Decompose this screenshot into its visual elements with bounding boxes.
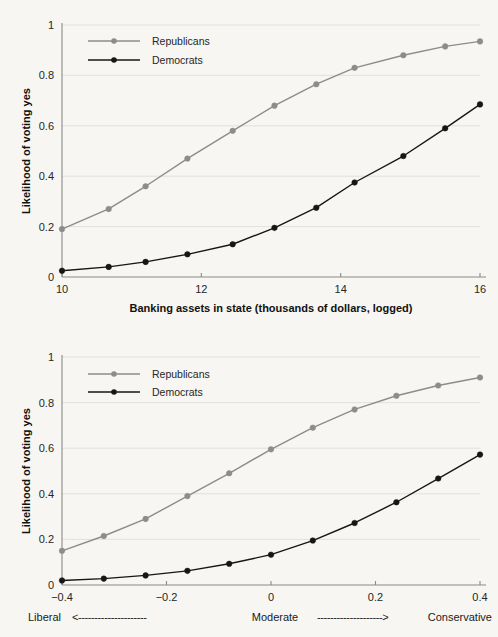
- scale-label-liberal: Liberal: [28, 611, 61, 623]
- data-point-republicans: [143, 183, 149, 189]
- data-point-democrats: [435, 476, 441, 482]
- ideology-figure: 00.20.40.60.81−0.4−0.200.20.4Likelihood …: [0, 318, 498, 637]
- data-point-democrats: [401, 153, 407, 159]
- legend-swatch-marker-democrats: [111, 57, 117, 63]
- data-point-democrats: [313, 205, 319, 211]
- x-tick-label: −0.4: [51, 591, 73, 603]
- data-point-republicans: [401, 52, 407, 58]
- legend-label-republicans: Republicans: [152, 368, 210, 380]
- legend-label-republicans: Republicans: [152, 35, 210, 47]
- x-tick-label: 10: [56, 283, 68, 295]
- x-tick-label: 0: [268, 591, 274, 603]
- scale-label-moderate: Moderate: [252, 611, 298, 623]
- data-point-republicans: [313, 81, 319, 87]
- data-point-democrats: [101, 576, 107, 582]
- y-tick-label: 0.6: [39, 442, 54, 454]
- x-axis-title: Banking assets in state (thousands of do…: [130, 302, 413, 314]
- y-tick-label: 0.4: [39, 170, 54, 182]
- data-point-republicans: [310, 425, 316, 431]
- data-point-democrats: [226, 561, 232, 567]
- legend-label-democrats: Democrats: [152, 386, 203, 398]
- data-point-democrats: [143, 573, 149, 579]
- data-point-republicans: [101, 533, 107, 539]
- data-point-democrats: [272, 225, 278, 231]
- scale-right-arrow: -------------------->: [317, 611, 388, 623]
- x-tick-label: 12: [195, 283, 207, 295]
- x-tick-label: 0.4: [472, 591, 487, 603]
- series-line-republicans: [62, 41, 480, 229]
- data-point-republicans: [435, 383, 441, 389]
- data-point-republicans: [59, 226, 65, 232]
- data-point-democrats: [185, 568, 191, 574]
- x-tick-label: 0.2: [368, 591, 383, 603]
- y-axis-title: Likelihood of voting yes: [20, 408, 32, 534]
- data-point-republicans: [230, 128, 236, 134]
- series-line-republicans: [62, 378, 480, 551]
- y-axis-title: Likelihood of voting yes: [20, 88, 32, 214]
- data-point-democrats: [230, 241, 236, 247]
- data-point-republicans: [272, 103, 278, 109]
- y-tick-label: 0.6: [39, 120, 54, 132]
- data-point-democrats: [185, 252, 191, 258]
- data-point-republicans: [185, 493, 191, 499]
- x-tick-label: 14: [335, 283, 347, 295]
- data-point-republicans: [352, 65, 358, 71]
- data-point-democrats: [477, 102, 483, 108]
- data-point-republicans: [185, 156, 191, 162]
- data-point-republicans: [106, 206, 112, 212]
- y-tick-label: 0.8: [39, 69, 54, 81]
- data-point-republicans: [442, 44, 448, 50]
- y-tick-label: 0.2: [39, 533, 54, 545]
- data-point-republicans: [143, 516, 149, 522]
- legend-swatch-marker-democrats: [111, 389, 117, 395]
- legend-swatch-marker-republicans: [111, 38, 117, 44]
- y-tick-label: 1: [48, 351, 54, 363]
- data-point-democrats: [352, 180, 358, 186]
- data-point-democrats: [394, 499, 400, 505]
- y-tick-label: 0.2: [39, 221, 54, 233]
- data-point-republicans: [477, 375, 483, 381]
- data-point-democrats: [106, 264, 112, 270]
- scale-label-conservative: Conservative: [428, 611, 492, 623]
- scale-left-arrow: <---------------------: [72, 611, 147, 623]
- data-point-democrats: [442, 126, 448, 132]
- y-tick-label: 1: [48, 19, 54, 31]
- data-point-democrats: [352, 520, 358, 526]
- x-tick-label: −0.2: [156, 591, 178, 603]
- banking-assets-chart: 00.20.40.60.8110121416Likelihood of voti…: [0, 0, 498, 318]
- data-point-republicans: [59, 548, 65, 554]
- legend-label-democrats: Democrats: [152, 54, 203, 66]
- ideology-chart: 00.20.40.60.81−0.4−0.200.20.4Likelihood …: [0, 318, 498, 637]
- series-line-democrats: [62, 104, 480, 270]
- legend-swatch-marker-republicans: [111, 371, 117, 377]
- data-point-democrats: [143, 259, 149, 265]
- data-point-democrats: [477, 452, 483, 458]
- banking-assets-figure: 00.20.40.60.8110121416Likelihood of voti…: [0, 0, 498, 318]
- y-tick-label: 0: [48, 271, 54, 283]
- data-point-democrats: [268, 552, 274, 558]
- y-tick-label: 0: [48, 579, 54, 591]
- data-point-democrats: [310, 538, 316, 544]
- y-tick-label: 0.4: [39, 488, 54, 500]
- data-point-republicans: [268, 447, 274, 453]
- data-point-republicans: [226, 470, 232, 476]
- data-point-democrats: [59, 268, 65, 274]
- data-point-republicans: [477, 39, 483, 45]
- y-tick-label: 0.8: [39, 397, 54, 409]
- data-point-republicans: [394, 393, 400, 399]
- series-line-democrats: [62, 455, 480, 581]
- data-point-democrats: [59, 578, 65, 584]
- x-tick-label: 16: [474, 283, 486, 295]
- data-point-republicans: [352, 407, 358, 413]
